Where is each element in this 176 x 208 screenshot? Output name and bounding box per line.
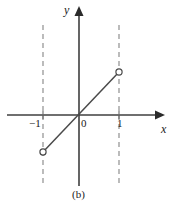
- figure-caption: (b): [72, 189, 85, 200]
- x-tick-label-one: 1: [117, 118, 123, 129]
- graph-figure: [0, 0, 176, 208]
- open-endpoint-marker-left: [40, 149, 46, 155]
- y-axis-label: y: [64, 4, 69, 16]
- x-axis-label: x: [161, 123, 166, 135]
- origin-label: 0: [81, 118, 87, 129]
- x-tick-label-neg-one: −1: [29, 118, 41, 129]
- open-endpoint-marker-right: [116, 69, 122, 75]
